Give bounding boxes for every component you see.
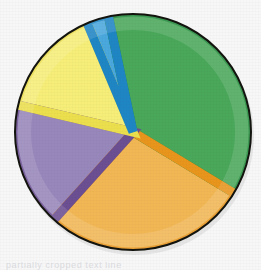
cropped-caption-text: partially cropped text line [6,262,122,270]
pie-chart-svg [0,0,261,270]
pie-chart-page: partially cropped text line [0,0,261,270]
cropped-caption-strip: partially cropped text line [0,262,261,270]
chart-area [0,0,261,270]
